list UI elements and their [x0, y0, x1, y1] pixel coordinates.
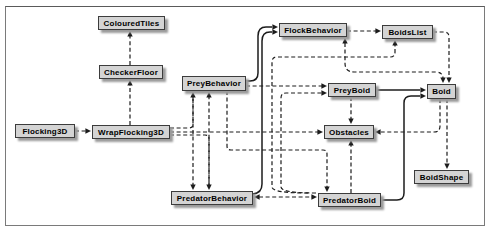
node-wrapflocking3d[interactable]: WrapFlocking3D [92, 125, 170, 139]
node-flockbehavior[interactable]: FlockBehavior [279, 23, 347, 37]
node-checkerfloor[interactable]: CheckerFloor [99, 65, 163, 79]
node-boidslist[interactable]: BoidsList [382, 25, 433, 39]
diagram: Flocking3DWrapFlocking3DColouredTilesChe… [0, 0, 492, 232]
node-predatorboid[interactable]: PredatorBoid [318, 193, 381, 207]
node-preybehavior[interactable]: PreyBehavior [182, 76, 246, 91]
node-boid[interactable]: Boid [427, 84, 456, 99]
node-preyboid[interactable]: PreyBoid [328, 83, 376, 97]
node-colouredtiles[interactable]: ColouredTiles [98, 16, 165, 30]
node-flocking3d[interactable]: Flocking3D [15, 124, 75, 138]
node-boidshape[interactable]: BoidShape [414, 170, 469, 184]
node-predatorbehavior[interactable]: PredatorBehavior [171, 191, 253, 205]
node-obstacles[interactable]: Obstacles [324, 125, 374, 139]
